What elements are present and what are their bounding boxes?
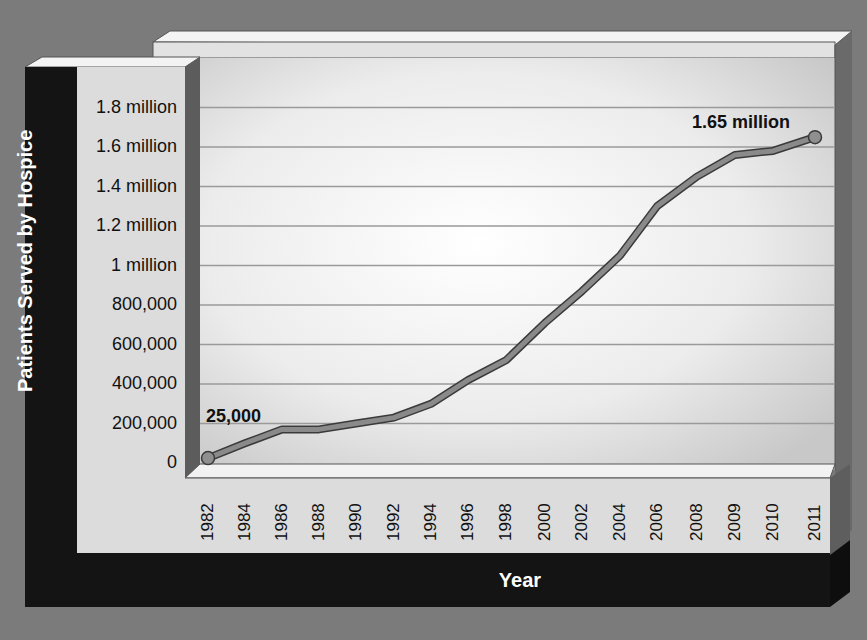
x-tick-label: 1990 — [347, 503, 365, 541]
x-tick-label: 1994 — [422, 503, 440, 541]
x-tick-label: 1992 — [385, 503, 403, 541]
x-tick-label: 1986 — [273, 503, 291, 541]
x-tick-label: 2011 — [806, 504, 824, 541]
x-axis-ticks: 1982198419861988199019921994199619982000… — [0, 0, 867, 640]
x-axis-title: Year — [470, 569, 570, 592]
x-tick-label: 2010 — [764, 503, 782, 541]
x-tick-label: 2008 — [688, 503, 706, 541]
x-tick-label: 2002 — [573, 503, 591, 541]
x-tick-label: 2006 — [648, 503, 666, 541]
annotation-start: 25,000 — [206, 406, 261, 427]
x-tick-label: 1984 — [236, 503, 254, 541]
annotation-end: 1.65 million — [692, 112, 790, 133]
x-tick-label: 2009 — [726, 503, 744, 541]
x-tick-label: 2000 — [536, 503, 554, 541]
x-tick-label: 1982 — [199, 503, 217, 541]
x-tick-label: 1998 — [497, 503, 515, 541]
x-tick-label: 2004 — [611, 503, 629, 541]
x-tick-label: 1996 — [459, 503, 477, 541]
x-tick-label: 1988 — [310, 503, 328, 541]
